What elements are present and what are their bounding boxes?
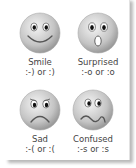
emoticon-code: :-o or :o xyxy=(67,67,129,77)
smile-face-icon xyxy=(19,12,61,54)
emoticon-surprised: Surprised :-o or :o xyxy=(67,12,129,92)
confused-face-icon xyxy=(72,89,114,131)
emoticon-card: Smile :-) or :) Surprised :-o or :o xyxy=(5,0,130,160)
surprised-face-icon xyxy=(77,12,119,54)
emoticon-confused: Confused :-s or :s xyxy=(62,89,124,168)
emoticon-name: Surprised xyxy=(67,57,129,67)
sad-face-icon xyxy=(19,89,61,131)
emoticon-smile: Smile :-) or :) xyxy=(9,12,71,92)
emoticon-code: :-s or :s xyxy=(62,144,124,154)
emoticon-code: :-) or :) xyxy=(9,67,71,77)
emoticon-name: Smile xyxy=(9,57,71,67)
emoticon-name: Confused xyxy=(62,134,124,144)
